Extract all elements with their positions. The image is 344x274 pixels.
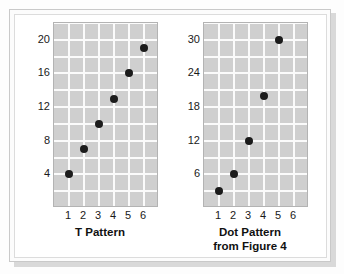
gridline-horizontal xyxy=(54,22,157,24)
chart-title: T Pattern xyxy=(30,225,170,239)
gridline-horizontal xyxy=(204,157,307,159)
gridline-vertical xyxy=(293,23,295,206)
x-axis-tick-label: 3 xyxy=(241,209,255,222)
x-axis-tick-label: 4 xyxy=(256,209,270,222)
chart-panel-dot-pattern: 612182430 123456 Dot Patternfrom Figure … xyxy=(172,22,320,207)
y-axis-tick-label: 12 xyxy=(22,101,50,112)
gridline-horizontal xyxy=(54,190,157,192)
gridline-horizontal xyxy=(54,89,157,91)
y-axis-tick-label: 6 xyxy=(172,168,200,179)
plot-wrapper: 612182430 123456 xyxy=(172,22,320,207)
gridline-vertical xyxy=(278,23,280,206)
y-axis-tick-label: 18 xyxy=(172,101,200,112)
gridline-vertical xyxy=(248,23,250,206)
chart-panel-t-pattern: 48121620 123456 T Pattern xyxy=(22,22,170,207)
gridline-horizontal xyxy=(204,39,307,41)
gridline-horizontal xyxy=(204,123,307,125)
y-axis-tick-label: 24 xyxy=(172,67,200,78)
gridline-horizontal xyxy=(54,140,157,142)
chart-title: Dot Patternfrom Figure 4 xyxy=(180,225,320,253)
gridline-horizontal xyxy=(54,157,157,159)
chart-title-line: Dot Pattern xyxy=(180,225,320,239)
gridline-vertical xyxy=(68,23,70,206)
gridline-horizontal xyxy=(54,72,157,74)
gridline-horizontal xyxy=(204,89,307,91)
plot-wrapper: 48121620 123456 xyxy=(22,22,170,207)
x-axis-tick-label: 6 xyxy=(136,209,150,222)
gridline-horizontal xyxy=(204,56,307,58)
x-axis-tick-label: 1 xyxy=(211,209,225,222)
y-axis-tick-label: 8 xyxy=(22,135,50,146)
data-point xyxy=(95,120,103,128)
data-point xyxy=(65,170,73,178)
chart-title-line: T Pattern xyxy=(30,225,170,239)
data-point xyxy=(275,36,283,44)
chart-title-line: from Figure 4 xyxy=(180,239,320,253)
gridline-horizontal xyxy=(54,39,157,41)
x-axis-tick-label: 3 xyxy=(91,209,105,222)
data-point xyxy=(140,44,148,52)
gridline-vertical xyxy=(113,23,115,206)
x-axis-tick-label: 2 xyxy=(226,209,240,222)
data-point xyxy=(80,145,88,153)
x-axis-tick-label: 1 xyxy=(61,209,75,222)
y-axis-tick-label: 4 xyxy=(22,168,50,179)
gridline-vertical xyxy=(128,23,130,206)
gridline-horizontal xyxy=(204,72,307,74)
gridline-horizontal xyxy=(54,106,157,108)
gridline-vertical xyxy=(83,23,85,206)
y-axis-labels: 48121620 xyxy=(22,22,50,207)
x-axis-tick-label: 5 xyxy=(121,209,135,222)
x-axis-tick-label: 4 xyxy=(106,209,120,222)
y-axis-tick-label: 30 xyxy=(172,34,200,45)
data-point xyxy=(260,92,268,100)
y-axis-tick-label: 20 xyxy=(22,34,50,45)
x-axis-tick-label: 6 xyxy=(286,209,300,222)
gridline-vertical xyxy=(98,23,100,206)
gridline-horizontal xyxy=(54,123,157,125)
gridline-vertical xyxy=(233,23,235,206)
gridline-vertical xyxy=(218,23,220,206)
x-axis-labels: 123456 xyxy=(53,209,158,224)
plot-area xyxy=(203,22,308,207)
y-axis-tick-label: 16 xyxy=(22,67,50,78)
data-point xyxy=(215,187,223,195)
figure-container: 48121620 123456 T Pattern 612182430 1234… xyxy=(0,0,344,274)
plot-area xyxy=(53,22,158,207)
gridline-horizontal xyxy=(54,56,157,58)
data-point xyxy=(110,95,118,103)
y-axis-tick-label: 12 xyxy=(172,135,200,146)
data-point xyxy=(230,170,238,178)
gridline-vertical xyxy=(263,23,265,206)
gridline-horizontal xyxy=(204,140,307,142)
x-axis-tick-label: 2 xyxy=(76,209,90,222)
x-axis-tick-label: 5 xyxy=(271,209,285,222)
gridline-horizontal xyxy=(204,22,307,24)
y-axis-labels: 612182430 xyxy=(172,22,200,207)
gridline-horizontal xyxy=(204,173,307,175)
data-point xyxy=(245,137,253,145)
data-point xyxy=(125,69,133,77)
x-axis-labels: 123456 xyxy=(203,209,308,224)
gridline-horizontal xyxy=(204,106,307,108)
